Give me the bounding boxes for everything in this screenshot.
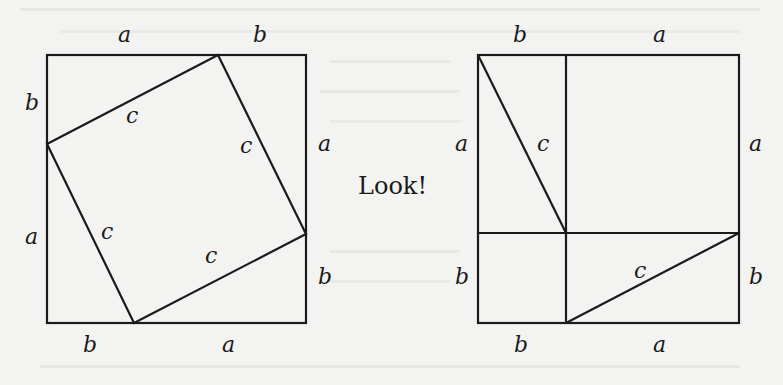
c-right-label: c bbox=[240, 133, 252, 158]
left-side-b-label: b bbox=[25, 90, 39, 115]
right-figure bbox=[478, 55, 739, 323]
c-top-label: c bbox=[126, 103, 138, 128]
right-bottom-a-label: a bbox=[653, 332, 666, 357]
right-outer-square bbox=[478, 55, 739, 323]
bottom-a-label: a bbox=[222, 332, 235, 357]
left-top-b-label: b bbox=[253, 22, 267, 47]
right-right-a-label: a bbox=[749, 131, 762, 156]
pythagorean-proof-diagram: a b b a a b b a c c c c Look! b a a b a … bbox=[0, 0, 783, 385]
left-inner-tilted-square bbox=[47, 55, 306, 323]
right-right-b-label: b bbox=[749, 264, 763, 289]
right-top-b-label: b bbox=[513, 22, 527, 47]
right-left-b-label: b bbox=[455, 264, 469, 289]
right-c-upper-label: c bbox=[537, 131, 549, 156]
right-figure-labels: b a a b a b b a c c bbox=[455, 22, 763, 357]
right-side-a-label: a bbox=[318, 131, 331, 156]
look-caption: Look! bbox=[358, 172, 427, 200]
right-top-a-label: a bbox=[653, 22, 666, 47]
left-side-a-label: a bbox=[25, 224, 38, 249]
c-left-label: c bbox=[101, 219, 113, 244]
bottom-b-label: b bbox=[83, 332, 97, 357]
right-side-b-label: b bbox=[318, 264, 332, 289]
right-left-a-label: a bbox=[455, 131, 468, 156]
left-outer-square bbox=[47, 55, 306, 323]
c-bottom-label: c bbox=[205, 243, 217, 268]
upper-diagonal-c bbox=[478, 55, 566, 233]
right-c-lower-label: c bbox=[634, 258, 646, 283]
right-bottom-b-label: b bbox=[514, 332, 528, 357]
left-figure-labels: a b b a a b b a c c c c bbox=[25, 22, 332, 357]
left-top-a-label: a bbox=[118, 22, 131, 47]
left-figure bbox=[47, 55, 306, 323]
lower-diagonal-c bbox=[566, 233, 739, 323]
